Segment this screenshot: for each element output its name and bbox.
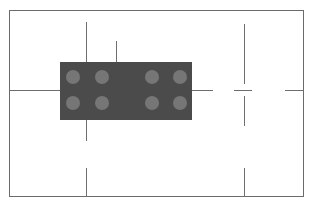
hole-r1-c4 [173,70,187,84]
hole-r1-c3 [145,70,159,84]
centerline-vertical-bottom-right [244,168,245,197]
centerline-horizontal-right [192,90,213,91]
crosshair-arm-bottom [244,96,245,126]
rectangular-component [60,62,192,120]
hole-r1-c1 [66,70,80,84]
hole-r2-c3 [145,96,159,110]
hole-r2-c4 [173,96,187,110]
crosshair-arm-left [234,90,252,91]
centerline-vertical-lower [86,120,87,141]
drawing-canvas [0,0,316,207]
hole-r2-c2 [95,96,109,110]
hole-r1-c2 [95,70,109,84]
crosshair-arm-top [244,24,245,84]
centerline-horizontal-edge [285,90,304,91]
hole-r2-c1 [66,96,80,110]
centerline-horizontal-left [10,90,60,91]
centerline-vertical-bottom [86,168,87,197]
